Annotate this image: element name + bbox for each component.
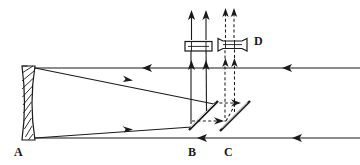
fold-mirror-b-face	[191, 102, 216, 127]
primary-mirror-group	[22, 66, 35, 140]
diagram-canvas	[0, 0, 360, 165]
ray-reflected-upper	[35, 68, 214, 104]
fold-mirror-b-back	[189, 101, 218, 130]
arrow-dashed-d-left-mid	[222, 58, 228, 67]
label-c: C	[224, 146, 233, 158]
dashed-beam-arrowheads	[214, 8, 241, 125]
arrow-dashed-d-right-mid	[231, 58, 237, 67]
optical-ray-diagram: A B C D	[0, 0, 360, 165]
ray-reflected-lower	[35, 127, 192, 138]
label-b: B	[188, 146, 196, 158]
optical-axis-group	[30, 68, 360, 138]
label-a: A	[14, 146, 23, 158]
lens-assembly-b	[185, 42, 212, 52]
label-d: D	[254, 35, 263, 47]
primary-mirror-face	[22, 66, 35, 140]
arrow-reflected-upper	[123, 76, 133, 83]
fold-mirror-b	[189, 101, 218, 130]
beam-b-right-lower	[206, 42, 207, 111]
lens-assembly-d	[218, 39, 247, 52]
